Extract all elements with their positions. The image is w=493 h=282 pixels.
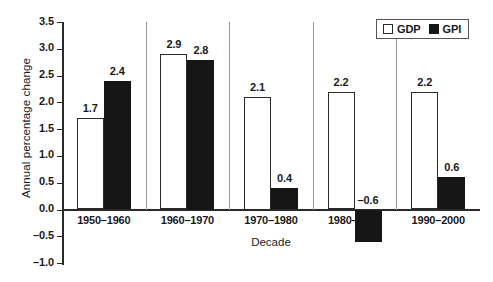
bar-gpi-2 [271, 188, 298, 209]
y-tick-label: 2.0 [14, 95, 54, 107]
x-tick-label: 1970–1980 [229, 214, 313, 226]
y-tick-label: 0.0 [14, 202, 54, 214]
bar-value-label: 2.2 [402, 76, 447, 88]
bar-gdp-3 [328, 92, 355, 210]
y-tick-label: 1.5 [14, 122, 54, 134]
bar-gpi-4 [438, 177, 465, 209]
y-tick-label: 3.5 [14, 15, 54, 27]
bar-value-label: –0.6 [346, 194, 391, 206]
legend-label-gpi: GPI [443, 23, 462, 35]
group-separator [396, 22, 397, 210]
bar-gpi-0 [104, 81, 131, 210]
bar-value-label: 2.8 [178, 44, 223, 56]
x-tick-label: 1950–1960 [62, 214, 146, 226]
x-axis-title: Decade [62, 236, 480, 248]
x-tick-label: 1960–1970 [146, 214, 230, 226]
x-tick-label: 1990–2000 [396, 214, 480, 226]
group-separator [229, 22, 230, 210]
y-tick-label: –0.5 [14, 229, 54, 241]
group-separator [146, 22, 147, 210]
legend-swatch-gpi [429, 24, 439, 34]
group-separator [313, 22, 314, 210]
bar-gdp-4 [411, 92, 438, 210]
y-tick-label: 0.5 [14, 175, 54, 187]
bar-value-label: 2.4 [95, 65, 140, 77]
legend-item-gpi: GPI [429, 23, 462, 35]
bar-value-label: 2.2 [319, 76, 364, 88]
bar-gpi-1 [187, 60, 214, 210]
legend-item-gdp: GDP [383, 23, 421, 35]
bar-gdp-2 [244, 97, 271, 210]
y-tick-label: 3.0 [14, 41, 54, 53]
y-tick-label: 2.5 [14, 68, 54, 80]
legend-swatch-gdp [383, 24, 393, 34]
bar-gdp-0 [77, 118, 104, 209]
bar-gdp-1 [160, 54, 187, 209]
bar-gpi-3 [355, 210, 382, 242]
bar-value-label: 0.6 [429, 161, 474, 173]
y-tick-label: –1.0 [14, 256, 54, 268]
legend: GDP GPI [376, 19, 469, 39]
bar-value-label: 0.4 [262, 172, 307, 184]
y-axis-line [62, 22, 64, 265]
y-tick-label: 1.0 [14, 148, 54, 160]
legend-label-gdp: GDP [397, 23, 421, 35]
bar-value-label: 2.1 [235, 81, 280, 93]
bar-chart: Annual percentage change 3.53.02.52.01.5… [0, 0, 493, 282]
